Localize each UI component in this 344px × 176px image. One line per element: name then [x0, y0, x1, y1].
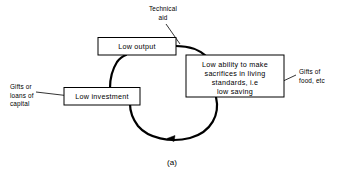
annotation-gifts-or-loans-line-2: capital — [10, 100, 30, 108]
box-low-output[interactable]: Low output — [98, 38, 176, 56]
annotation-gifts-or-loans-line-1: loans of — [10, 92, 34, 99]
arc-segment-investment-to-output — [110, 55, 126, 88]
annotation-technical-aid-line-0: Technical — [149, 5, 177, 12]
box-low-ability-line-0: Low ability to make — [202, 60, 268, 69]
annotation-gifts-of-food: Gifts of food, etc — [299, 68, 326, 84]
arc-segment-ability-to-investment — [130, 97, 217, 140]
vicious-circle-diagram: Low output Low ability to make sacrifice… — [0, 0, 344, 176]
box-low-investment[interactable]: Low investment — [64, 88, 140, 106]
annotation-gifts-of-food-line-0: Gifts of — [299, 68, 321, 75]
annotation-technical-aid-line-1: aid — [159, 14, 168, 21]
annotation-technical-aid: Technical aid — [149, 5, 177, 21]
annotation-gifts-or-loans-line-0: Gifts or — [10, 83, 33, 90]
figure-canvas: Low output Low ability to make sacrifice… — [0, 0, 344, 176]
annotation-gifts-of-food-line-1: food, etc — [299, 77, 326, 84]
box-low-investment-line-0: Low investment — [75, 92, 128, 101]
figure-caption: (a) — [167, 158, 177, 167]
box-low-ability-line-1: sacrifices in living — [205, 69, 266, 78]
box-low-output-line-0: Low output — [118, 42, 156, 51]
box-low-ability-line-2: standards, i.e — [212, 78, 259, 87]
box-low-ability-to-make-sacrifices[interactable]: Low ability to make sacrifices in living… — [186, 55, 284, 97]
box-low-ability-line-3: low saving — [217, 87, 253, 96]
annotation-gifts-or-loans-of-capital: Gifts or loans of capital — [10, 83, 34, 108]
